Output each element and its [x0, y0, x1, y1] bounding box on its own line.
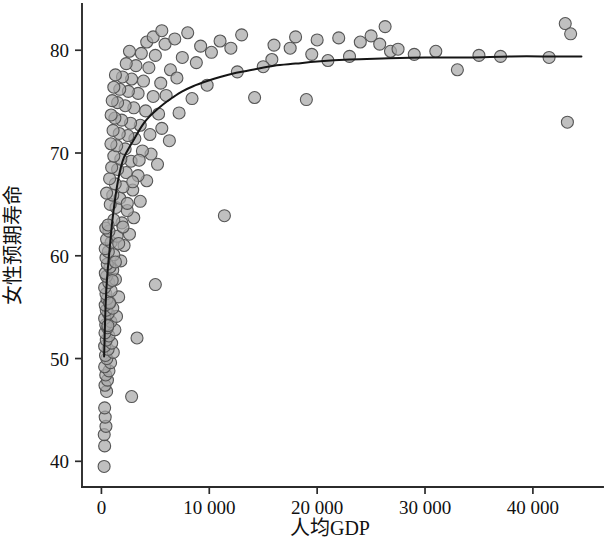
x-tick-label: 0 — [97, 497, 107, 518]
data-point — [565, 28, 577, 40]
data-point — [98, 460, 110, 472]
data-point — [99, 440, 111, 452]
data-point — [290, 31, 302, 43]
x-tick-label: 20 000 — [291, 497, 343, 518]
data-point — [143, 62, 155, 74]
data-point — [182, 27, 194, 39]
data-point — [561, 116, 573, 128]
data-point — [205, 46, 217, 58]
y-tick-label: 80 — [50, 40, 69, 61]
data-point — [101, 187, 113, 199]
data-point — [135, 47, 147, 59]
data-point — [108, 81, 120, 93]
data-point — [127, 176, 139, 188]
data-point — [249, 92, 261, 104]
data-point — [121, 197, 133, 209]
y-tick-label: 60 — [50, 246, 69, 267]
data-point — [236, 29, 248, 41]
data-point — [134, 195, 146, 207]
data-point — [102, 320, 114, 332]
data-point — [163, 135, 175, 147]
data-point — [306, 48, 318, 60]
data-point — [268, 39, 280, 51]
data-point — [173, 107, 185, 119]
x-axis-title: 人均GDP — [290, 517, 370, 539]
data-point — [176, 51, 188, 63]
data-point — [109, 69, 121, 81]
data-point — [155, 77, 167, 89]
data-point — [123, 45, 135, 57]
data-point — [120, 58, 132, 70]
x-tick-label: 30 000 — [399, 497, 451, 518]
data-point — [117, 221, 129, 233]
data-point — [473, 49, 485, 61]
data-point — [311, 34, 323, 46]
data-point — [107, 124, 119, 136]
data-point — [195, 40, 207, 52]
x-tick-label: 10 000 — [183, 497, 235, 518]
data-point — [131, 332, 143, 344]
chart-canvas: 010 00020 00030 00040 0004050607080 人均GD… — [0, 0, 615, 546]
data-point — [214, 35, 226, 47]
data-point — [99, 402, 111, 414]
x-tick-label: 40 000 — [507, 497, 559, 518]
data-point — [106, 95, 118, 107]
data-point — [171, 72, 183, 84]
data-point — [430, 45, 442, 57]
data-point — [186, 93, 198, 105]
data-point — [190, 57, 202, 69]
data-point — [169, 33, 181, 45]
scatter-plot-figure: 010 00020 00030 00040 0004050607080 人均GD… — [0, 0, 615, 546]
data-point — [149, 279, 161, 291]
data-point — [109, 256, 121, 268]
data-point — [113, 237, 125, 249]
data-point — [225, 42, 237, 54]
data-point — [153, 108, 165, 120]
data-point — [284, 42, 296, 54]
data-point — [105, 138, 117, 150]
data-point — [392, 43, 404, 55]
data-point — [451, 64, 463, 76]
y-tick-label: 50 — [50, 349, 69, 370]
data-point — [133, 154, 145, 166]
y-tick-label: 70 — [50, 143, 69, 164]
data-point — [156, 25, 168, 37]
data-point — [354, 36, 366, 48]
data-point — [156, 122, 168, 134]
data-point — [144, 129, 156, 141]
data-point — [126, 391, 138, 403]
data-point — [218, 210, 230, 222]
data-point — [149, 49, 161, 61]
data-point — [137, 75, 149, 87]
data-point — [374, 38, 386, 50]
data-point — [300, 94, 312, 106]
y-tick-label: 40 — [50, 451, 69, 472]
data-point — [379, 21, 391, 33]
y-axis-title: 女性预期寿命 — [2, 185, 24, 305]
data-point — [543, 51, 555, 63]
plot-background — [0, 0, 615, 546]
data-point — [333, 32, 345, 44]
data-point — [147, 90, 159, 102]
data-point — [105, 109, 117, 121]
